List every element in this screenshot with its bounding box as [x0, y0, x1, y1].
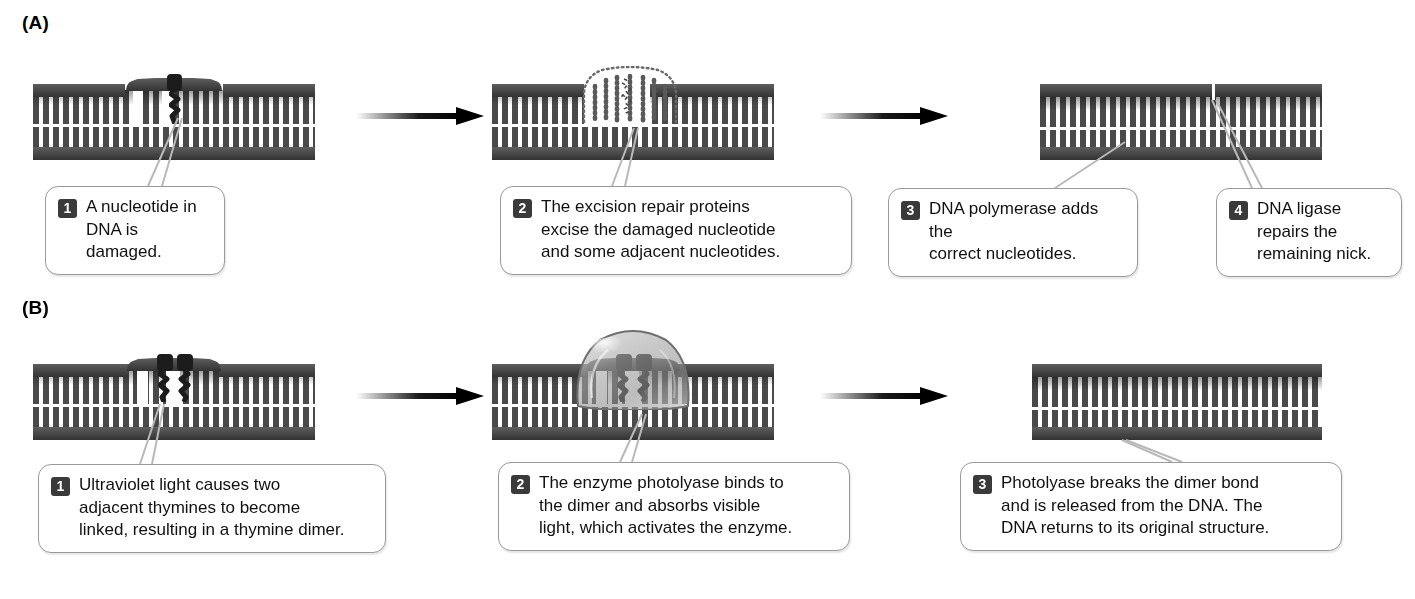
- dna-double-helix-icon: [1040, 84, 1322, 160]
- thymine-zigzag-left: [158, 368, 169, 402]
- dna-double-helix-icon: [492, 68, 774, 160]
- photolyase-enzyme-icon: [570, 326, 696, 404]
- bulge-arc: [127, 358, 221, 371]
- dna-backbone-top: [1040, 84, 1322, 97]
- excised-fragment-outline-icon: [580, 66, 678, 120]
- callout-text: Photolyase breaks the dimer bond and is …: [1001, 472, 1269, 540]
- dna-double-helix-icon: [492, 348, 774, 440]
- panel-label-b: (B): [22, 297, 49, 319]
- thymine-zigzag-right: [178, 368, 189, 402]
- right-arrow-icon: [356, 103, 484, 129]
- callout-b-step-2[interactable]: 2 The enzyme photolyase binds to the dim…: [498, 462, 850, 551]
- dna-repair-figure: (A): [0, 0, 1415, 599]
- damaged-nucleotide-icon: [126, 68, 222, 102]
- callout-a-step-4[interactable]: 4 DNA ligase repairs the remaining nick.: [1216, 188, 1402, 277]
- callout-b-step-1[interactable]: 1 Ultraviolet light causes two adjacent …: [38, 464, 386, 553]
- step-badge: 4: [1229, 201, 1248, 220]
- dna-backbone-bottom: [492, 147, 774, 160]
- step-badge: 3: [973, 475, 992, 494]
- dna-double-helix-icon: [33, 68, 315, 160]
- callout-a-step-1[interactable]: 1 A nucleotide in DNA is damaged.: [45, 186, 225, 275]
- dna-backbone-top-right: [223, 84, 315, 97]
- dna-backbone-top-left: [33, 364, 129, 377]
- callout-text: The excision repair proteins excise the …: [541, 196, 780, 264]
- dna-backbone-top-left: [492, 84, 584, 97]
- right-arrow-icon: [820, 103, 948, 129]
- panel-label-a: (A): [22, 12, 49, 34]
- dna-backbone-top: [1032, 364, 1322, 377]
- dna-midline: [1040, 127, 1322, 130]
- step-badge: 1: [58, 199, 77, 218]
- callout-a-step-3[interactable]: 3 DNA polymerase adds the correct nucleo…: [888, 188, 1138, 277]
- callout-a-step-2[interactable]: 2 The excision repair proteins excise th…: [500, 186, 852, 275]
- dna-backbone-top-right: [219, 364, 315, 377]
- dna-backbone-bottom: [1032, 427, 1322, 440]
- dna-backbone-bottom: [33, 147, 315, 160]
- dna-backbone-top-left: [33, 84, 125, 97]
- dna-double-helix-icon: [33, 348, 315, 440]
- dna-core: [1040, 97, 1322, 160]
- dna-backbone-bottom: [492, 427, 774, 440]
- dna-core: [1032, 377, 1322, 440]
- lesion-zigzag: [169, 88, 180, 122]
- dna-nick-icon: [1212, 83, 1215, 100]
- dna-backbone-bottom: [1040, 147, 1322, 160]
- callout-text: A nucleotide in DNA is damaged.: [86, 196, 211, 264]
- callout-text: DNA polymerase adds the correct nucleoti…: [929, 198, 1124, 266]
- dna-backbone-bottom: [33, 427, 315, 440]
- step-badge: 3: [901, 201, 920, 220]
- callout-text: Ultraviolet light causes two adjacent th…: [79, 474, 345, 542]
- step-badge: 2: [513, 199, 532, 218]
- callout-b-step-3[interactable]: 3 Photolyase breaks the dimer bond and i…: [960, 462, 1342, 551]
- callout-text: DNA ligase repairs the remaining nick.: [1257, 198, 1371, 266]
- dna-double-helix-icon: [1032, 364, 1322, 440]
- callout-text: The enzyme photolyase binds to the dimer…: [539, 472, 792, 540]
- step-badge: 1: [51, 477, 70, 496]
- right-arrow-icon: [356, 383, 484, 409]
- dna-midline: [1032, 407, 1322, 410]
- thymine-dimer-icon: [127, 348, 221, 382]
- step-badge: 2: [511, 475, 530, 494]
- right-arrow-icon: [820, 383, 948, 409]
